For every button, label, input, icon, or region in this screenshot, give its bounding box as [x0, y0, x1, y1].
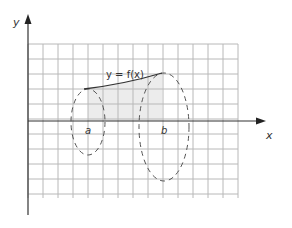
x-axis-arrow-icon: [256, 118, 266, 125]
diagram-canvas: y x y = f(x) a b: [0, 0, 292, 228]
label-b: b: [161, 125, 167, 136]
curve-label: y = f(x): [106, 69, 144, 80]
label-a: a: [85, 125, 91, 136]
y-axis-label: y: [12, 16, 20, 29]
diagram-svg: y x y = f(x) a b: [0, 0, 292, 228]
shaded-region: [88, 73, 162, 121]
x-axis-label: x: [265, 129, 273, 142]
y-axis-arrow-icon: [25, 14, 32, 24]
